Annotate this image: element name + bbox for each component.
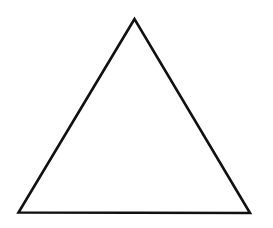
background [0, 0, 273, 228]
diagram-canvas [0, 0, 273, 228]
